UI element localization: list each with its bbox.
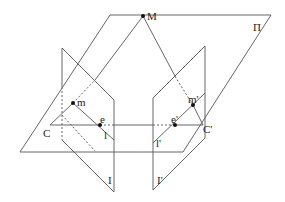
ray-to-M-visible	[95, 16, 143, 80]
label-m-prime: m'	[188, 94, 199, 105]
label-M: M	[147, 11, 157, 22]
ray-mprime-to-M-visible	[143, 16, 176, 78]
label-l-prime: l'	[156, 138, 161, 149]
label-I: I	[108, 175, 112, 186]
plane-i-prime-top-edge	[153, 46, 205, 98]
plane-pi-outline	[20, 15, 271, 152]
label-l: l	[104, 130, 107, 141]
pi-intersect-hidden	[62, 115, 95, 151]
label-pi: Π	[253, 22, 261, 33]
label-C: C	[43, 128, 50, 139]
plane-i-bottom-edge	[62, 140, 114, 192]
label-m: m	[77, 97, 86, 108]
point-m	[71, 101, 75, 105]
epipolar-diagram	[0, 0, 285, 202]
point-M	[141, 14, 145, 18]
label-e: e	[100, 114, 105, 125]
epipolar-line-l	[73, 103, 114, 140]
label-e-prime: e'	[171, 114, 178, 125]
label-I-prime: I'	[157, 175, 163, 186]
plane-i-top-edge	[62, 48, 114, 100]
ray-c-to-m	[50, 103, 73, 125]
label-C-prime: C'	[203, 124, 212, 135]
ray-cprime-to-mprime	[193, 105, 203, 125]
